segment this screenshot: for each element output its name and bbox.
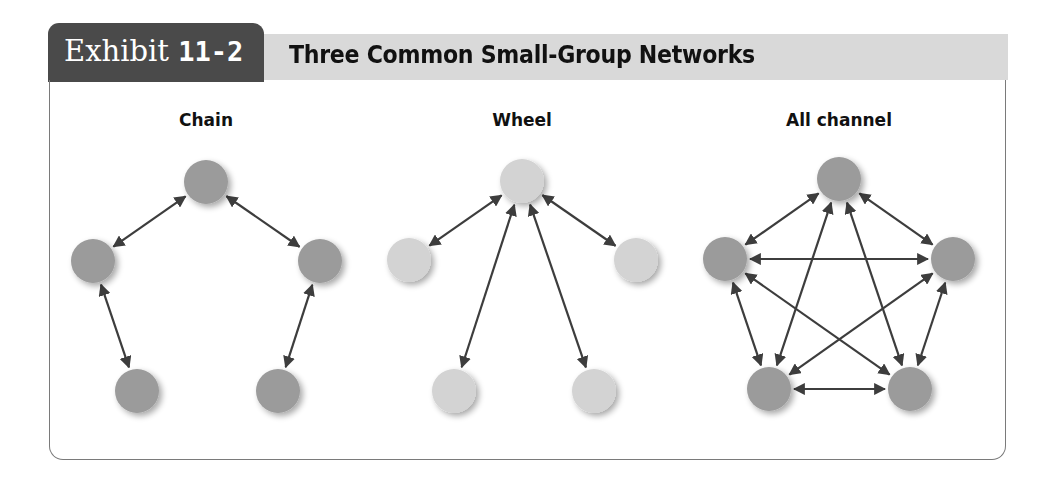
all-channel-arrow-right-bottom-left	[789, 273, 932, 374]
edges-layer	[101, 193, 945, 389]
all-channel-node-bottom-right	[888, 367, 932, 411]
all-channel-arrow-top-right	[859, 193, 932, 244]
all-channel-arrow-top-bottom-left	[777, 203, 831, 366]
wheel-arrow-top-bottom-right	[530, 205, 586, 368]
wheel-node-bottom-right	[572, 369, 616, 413]
all-channel-arrow-right-bottom-right	[918, 283, 945, 366]
chain-arrow-top-left	[113, 196, 185, 246]
wheel-arrow-top-right	[543, 195, 616, 246]
all-channel-node-left	[703, 237, 747, 281]
wheel-node-right	[614, 238, 658, 282]
all-channel-node-top	[817, 157, 861, 201]
all-channel-arrow-left-bottom-right	[745, 273, 889, 374]
all-channel-node-bottom-left	[747, 367, 791, 411]
wheel-node-top	[500, 159, 544, 203]
chain-node-left	[71, 239, 115, 283]
all-channel-arrow-top-bottom-right	[847, 203, 902, 366]
chain-arrow-left-bottom-left	[101, 285, 129, 368]
wheel-node-bottom-left	[432, 369, 476, 413]
chain-node-top	[184, 160, 228, 204]
wheel-arrow-top-bottom-left	[462, 205, 515, 367]
network-diagrams	[0, 0, 1061, 483]
all-channel-arrow-left-bottom-left	[733, 283, 761, 366]
all-channel-arrow-top-left	[745, 193, 818, 244]
all-channel-node-right	[931, 237, 975, 281]
chain-node-right	[298, 239, 342, 283]
wheel-node-left	[387, 238, 431, 282]
wheel-arrow-top-left	[429, 195, 501, 245]
chain-arrow-right-bottom-right	[286, 285, 313, 367]
chain-node-bottom-right	[256, 369, 300, 413]
nodes-layer	[71, 157, 975, 413]
chain-arrow-top-right	[227, 196, 300, 247]
chain-node-bottom-left	[115, 369, 159, 413]
